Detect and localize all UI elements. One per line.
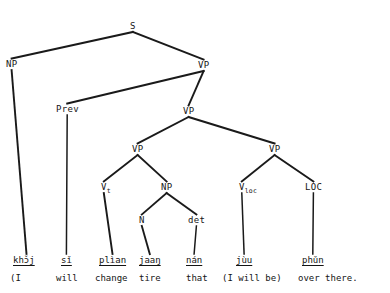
gloss-t-3: change xyxy=(95,274,128,283)
tree-node-subscript: t xyxy=(107,187,111,195)
gloss-t-1: (I xyxy=(10,274,21,283)
terminal-word-t-4: jaaŋ xyxy=(139,256,161,265)
tree-edge-vp-2-to-vp-4 xyxy=(189,117,275,144)
tree-node-label: VP xyxy=(132,144,143,154)
syntax-tree-diagram: SNPVPPrevVPVPVPVtNPVlocLOCNdet khɔ̌jsǐpl… xyxy=(0,0,390,293)
terminal-word-t-1: khɔ̌j xyxy=(13,256,35,265)
terminal-word-t-7: phǔn xyxy=(302,256,324,265)
tree-node-v-loc: Vloc xyxy=(239,183,257,194)
tree-edge-vp-1-to-vp-2 xyxy=(189,71,204,106)
tree-node-label: N xyxy=(139,215,145,225)
terminal-word-t-5: nán xyxy=(186,256,202,265)
tree-edge-v-t-to-t-3 xyxy=(104,193,113,254)
tree-node-label: VP xyxy=(269,144,280,154)
tree-edge-vp-4-to-v-loc xyxy=(242,155,275,182)
tree-edge-vp-1-to-prev xyxy=(67,71,203,104)
tree-edge-prev-to-t-2 xyxy=(66,115,67,254)
terminal-word-t-2: sǐ xyxy=(61,256,72,265)
tree-edge-s-to-np-subj xyxy=(12,32,133,59)
tree-edge-np-obj-to-n xyxy=(142,193,167,215)
tree-node-label: S xyxy=(130,21,136,31)
tree-node-vp-3: VP xyxy=(132,145,143,154)
tree-edge-vp-2-to-vp-3 xyxy=(138,117,189,144)
tree-node-vp-4: VP xyxy=(269,145,280,154)
tree-node-loc: LOC xyxy=(305,183,322,192)
tree-node-det: det xyxy=(188,216,205,225)
tree-node-label: Prev xyxy=(56,104,79,114)
tree-edge-np-subj-to-t-1 xyxy=(12,70,27,254)
tree-node-vp-1: VP xyxy=(198,61,209,70)
tree-node-label: det xyxy=(188,215,205,225)
tree-edge-vp-4-to-loc xyxy=(275,155,314,182)
gloss-t-6: (I will be) xyxy=(222,274,282,283)
tree-node-label: NP xyxy=(161,182,172,192)
tree-node-label: NP xyxy=(6,59,17,69)
gloss-t-2: will xyxy=(56,274,78,283)
tree-node-subscript: loc xyxy=(245,187,257,195)
tree-node-n: N xyxy=(139,216,145,225)
tree-edge-loc-to-t-7 xyxy=(313,193,314,254)
tree-branch-lines xyxy=(0,0,390,293)
gloss-t-5: that xyxy=(186,274,208,283)
tree-edge-s-to-vp-1 xyxy=(133,32,204,60)
tree-node-label: LOC xyxy=(305,182,322,192)
tree-edge-n-to-t-4 xyxy=(142,226,150,254)
tree-edge-np-obj-to-det xyxy=(167,193,197,215)
tree-node-np-obj: NP xyxy=(161,183,172,192)
terminal-word-t-3: plìan xyxy=(99,256,126,265)
tree-node-v-t: Vt xyxy=(101,183,111,194)
gloss-t-7: over there. xyxy=(298,274,358,283)
tree-node-prev: Prev xyxy=(56,105,79,114)
tree-node-np-subj: NP xyxy=(6,60,17,69)
tree-node-label: VP xyxy=(198,60,209,70)
terminal-word-t-6: jùu xyxy=(236,256,252,265)
tree-node-vp-2: VP xyxy=(183,107,194,116)
gloss-t-4: tire xyxy=(139,274,161,283)
tree-edge-v-loc-to-t-6 xyxy=(242,193,244,254)
tree-edge-vp-3-to-v-t xyxy=(104,155,138,182)
tree-node-s: S xyxy=(130,22,136,31)
tree-edge-det-to-t-5 xyxy=(194,226,196,254)
tree-edge-vp-3-to-np-obj xyxy=(138,155,167,182)
tree-node-label: VP xyxy=(183,106,194,116)
